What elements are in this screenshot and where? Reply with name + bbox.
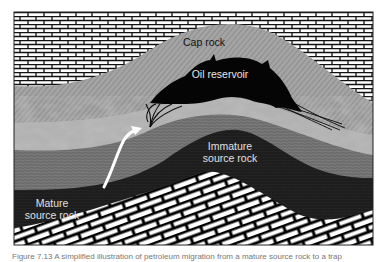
- cap-rock-label: Cap rock: [183, 36, 226, 48]
- immature-source-rock-label-line2: source rock: [203, 152, 258, 164]
- oil-trap-cross-section-diagram: Cap rock Oil reservoir Immature source r…: [0, 0, 387, 262]
- figure-caption: Figure 7.13 A simplified illustration of…: [12, 252, 342, 261]
- immature-source-rock-label-line1: Immature: [208, 140, 253, 152]
- mature-source-rock-label-line2: source rock: [25, 209, 80, 221]
- oil-reservoir-label: Oil reservoir: [192, 68, 249, 80]
- mature-source-rock-label-line1: Mature: [36, 197, 69, 209]
